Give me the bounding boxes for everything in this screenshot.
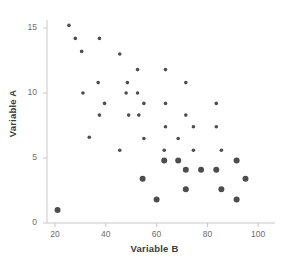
data-point [87,135,91,139]
data-point [214,102,218,106]
data-point [154,197,160,203]
data-point [80,50,84,54]
data-point [67,24,71,28]
data-point [218,186,224,192]
data-point [140,176,146,182]
data-point [136,91,140,95]
data-point [220,148,224,152]
data-point [164,102,168,106]
data-point [137,113,141,117]
y-tick-label: 5 [17,152,37,162]
data-point [124,91,128,95]
data-point [118,52,122,56]
data-points [55,24,249,213]
data-point [126,81,130,85]
y-axis-title: Variable A [7,79,18,149]
data-point [164,125,168,129]
data-point [142,102,146,106]
data-point [183,167,189,173]
axes [43,20,275,227]
data-point [127,113,131,117]
data-point [183,186,189,192]
x-axis-title: Variable B [47,243,262,254]
data-point [161,158,167,164]
y-tick-label: 0 [17,217,37,227]
x-tick-label: 40 [94,229,118,239]
data-point [243,176,249,182]
x-tick-label: 80 [195,229,219,239]
data-point [234,158,240,164]
data-point [162,148,166,152]
data-point [192,125,196,129]
data-point [98,37,102,41]
data-point [98,113,102,117]
data-point [74,37,78,41]
data-point [175,158,181,164]
y-axis-ticks [43,28,47,223]
data-point [176,137,180,141]
x-tick-label: 100 [246,229,270,239]
data-point [164,68,168,72]
data-point [55,207,61,213]
data-point [234,197,240,203]
data-point [198,167,204,173]
data-point [142,137,146,141]
y-tick-label: 10 [17,87,37,97]
plot-area [0,0,292,264]
x-axis-ticks [55,223,258,227]
scatter-chart: Variable A Variable B 05101520406080100 [0,0,292,264]
data-point [192,148,196,152]
data-point [214,125,218,129]
data-point [136,68,140,72]
data-point [103,102,107,106]
y-tick-label: 15 [17,22,37,32]
data-point [118,148,122,152]
data-point [184,81,188,85]
data-point [184,113,188,117]
data-point [213,167,219,173]
x-tick-label: 20 [43,229,67,239]
data-point [81,91,85,95]
x-tick-label: 60 [145,229,169,239]
data-point [96,81,100,85]
